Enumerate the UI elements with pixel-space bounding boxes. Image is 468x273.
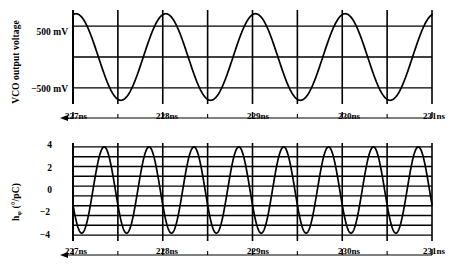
h-phi-plot-canvas: [0, 135, 468, 273]
svg-top-grid: [73, 10, 432, 104]
x-axis-arrow: [60, 252, 68, 258]
h-phi-panel: hφ (°/pC) 4 2 0 −2 −4 227ns 228ns 229ns …: [0, 135, 468, 273]
x-axis-arrow: [60, 115, 68, 121]
vco-plot-canvas: [0, 0, 468, 135]
vco-output-voltage-panel: VCO output voltage 500 mV −500 mV 227ns …: [0, 0, 468, 135]
figure-root: VCO output voltage 500 mV −500 mV 227ns …: [0, 0, 468, 273]
